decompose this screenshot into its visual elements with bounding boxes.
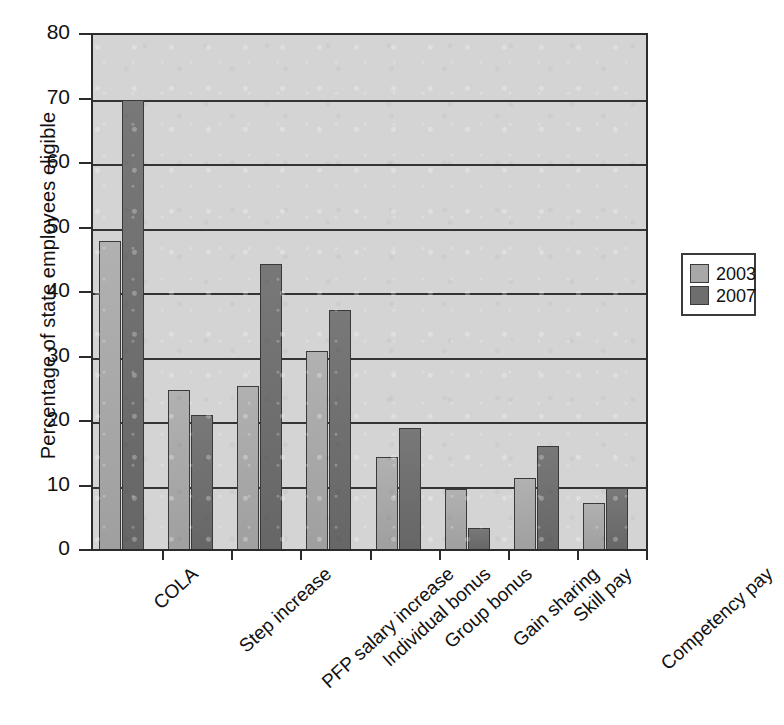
x-axis-tick [508,549,510,560]
y-axis-tick-label: 60 [10,149,70,173]
legend-swatch-icon-2007 [690,286,709,305]
x-axis-tick-label: COLA [149,563,202,614]
legend-label-2003: 2003 [716,265,756,283]
y-axis-tick [79,291,91,293]
bar [191,415,213,551]
bar [583,503,605,551]
bar [306,351,328,551]
legend[interactable]: 2003 2007 [681,253,756,316]
plot-area [93,33,648,551]
y-axis-tick [79,356,91,358]
y-axis-tick [79,420,91,422]
x-axis-tick [646,549,648,560]
bar [376,457,398,551]
y-axis-tick [79,33,91,35]
y-axis-tick-label: 10 [10,472,70,496]
gridline [93,229,646,231]
y-axis-spine [91,33,93,551]
y-axis-tick [79,162,91,164]
gridline [93,164,646,166]
legend-item-2003[interactable]: 2003 [690,264,747,283]
bar [514,478,536,551]
y-axis-tick-label: 20 [10,407,70,431]
y-axis-tick [79,227,91,229]
y-axis-tick-label: 40 [10,278,70,302]
x-axis-tick [162,549,164,560]
gridline [93,293,646,295]
x-axis-tick [231,549,233,560]
x-axis-tick [370,549,372,560]
y-axis-tick [79,485,91,487]
bar [237,386,259,551]
bar-chart-figure: Percentage of state employees eligible 0… [0,0,784,725]
y-axis-tick-label: 50 [10,214,70,238]
bar [329,310,351,551]
y-axis-tick-label: 70 [10,85,70,109]
bar [260,264,282,551]
y-axis-tick-label: 30 [10,343,70,367]
bar [399,428,421,551]
gridline [93,358,646,360]
legend-label-2007: 2007 [716,287,756,305]
y-axis-tick [79,549,91,551]
bar [468,528,490,551]
bar [168,390,190,551]
x-axis-tick [439,549,441,560]
gridline [93,100,646,102]
bar [122,100,144,552]
bar [606,488,628,551]
legend-item-2007[interactable]: 2007 [690,286,747,305]
x-axis-tick [300,549,302,560]
bar [445,489,467,551]
bar [537,446,559,551]
x-axis-tick-label: Competency pay [656,563,777,675]
y-axis-tick [79,98,91,100]
y-axis-tick-label: 0 [10,536,70,560]
y-axis-tick-label: 80 [10,20,70,44]
x-axis-tick [577,549,579,560]
legend-swatch-icon-2003 [690,264,709,283]
x-axis-tick-label: Step increase [235,563,336,657]
bar [99,241,121,551]
